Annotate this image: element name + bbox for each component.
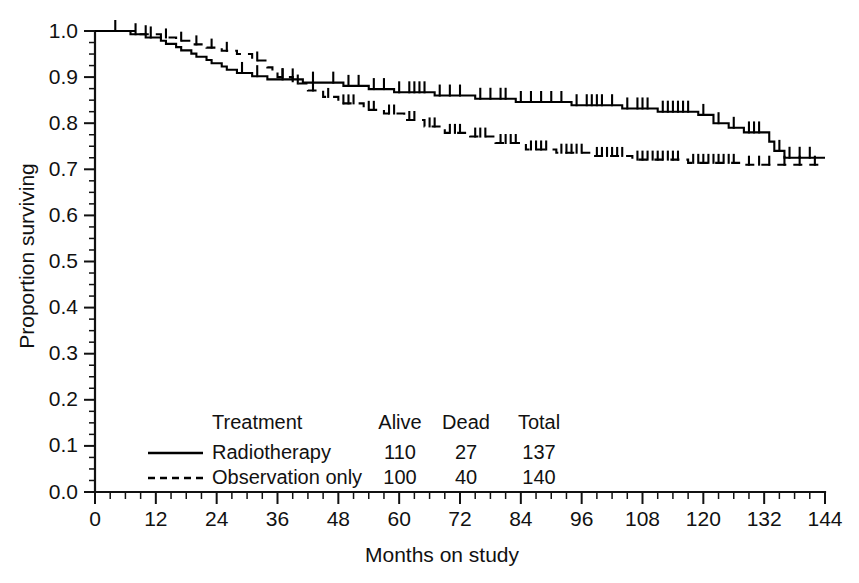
legend-row-label: Observation only — [212, 466, 362, 488]
y-tick-label: 1.0 — [49, 19, 78, 42]
legend-row-alive: 110 — [384, 441, 416, 463]
legend-row-dead: 27 — [455, 441, 477, 463]
legend-header-treatment: Treatment — [212, 411, 303, 433]
y-tick-label: 0.7 — [49, 157, 78, 180]
x-axis-tick-labels: 01224364860728496108120132144 — [89, 507, 843, 530]
x-tick-label: 0 — [89, 507, 101, 530]
y-tick-label: 0.4 — [49, 295, 79, 318]
y-tick-label: 0.8 — [49, 111, 78, 134]
x-tick-label: 144 — [807, 507, 842, 530]
y-tick-label: 0.6 — [49, 203, 78, 226]
censoring-marks — [115, 20, 815, 166]
y-tick-label: 0.5 — [49, 249, 78, 272]
y-axis-ticks — [84, 31, 95, 492]
y-tick-label: 0.9 — [49, 65, 78, 88]
x-tick-label: 84 — [509, 507, 533, 530]
x-tick-label: 36 — [266, 507, 289, 530]
x-tick-label: 60 — [387, 507, 410, 530]
kaplan-meier-figure: 0.00.10.20.30.40.50.60.70.80.91.0 012243… — [0, 0, 859, 583]
x-tick-label: 72 — [448, 507, 471, 530]
x-tick-label: 132 — [747, 507, 782, 530]
x-tick-label: 12 — [144, 507, 167, 530]
x-tick-label: 120 — [686, 507, 721, 530]
x-axis-ticks — [95, 492, 825, 504]
legend-row-total: 137 — [522, 441, 555, 463]
legend-row-alive: 100 — [383, 466, 416, 488]
legend-row-label: Radiotherapy — [212, 441, 331, 463]
legend-header-dead: Dead — [442, 411, 490, 433]
y-tick-label: 0.1 — [49, 433, 78, 456]
survival-plot: 0.00.10.20.30.40.50.60.70.80.91.0 012243… — [0, 0, 859, 583]
y-tick-label: 0.2 — [49, 387, 78, 410]
x-tick-label: 108 — [625, 507, 660, 530]
legend-block: TreatmentAliveDeadTotalRadiotherapy11027… — [148, 411, 560, 488]
x-tick-label: 24 — [205, 507, 229, 530]
y-axis-title: Proportion surviving — [15, 163, 38, 349]
y-axis-tick-labels: 0.00.10.20.30.40.50.60.70.80.91.0 — [49, 19, 79, 503]
survival-curves — [95, 31, 825, 165]
survival-curve-2 — [95, 31, 825, 165]
x-axis-title: Months on study — [365, 543, 520, 566]
x-tick-label: 48 — [327, 507, 350, 530]
legend-row-dead: 40 — [455, 466, 477, 488]
y-tick-label: 0.0 — [49, 480, 78, 503]
legend-row-total: 140 — [522, 466, 555, 488]
x-tick-label: 96 — [570, 507, 593, 530]
legend-header-total: Total — [518, 411, 560, 433]
y-tick-label: 0.3 — [49, 341, 78, 364]
legend-header-alive: Alive — [378, 411, 421, 433]
